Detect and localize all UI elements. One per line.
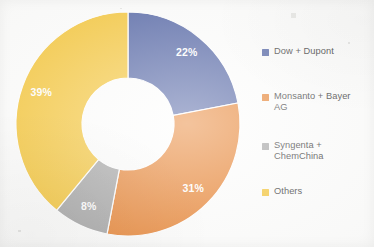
legend-swatch-syngenta-chemchina [262, 143, 269, 150]
chart-legend: Dow + Dupont Monsanto + Bayer AG Syngent… [262, 0, 374, 247]
scan-artifact-mark [291, 13, 296, 18]
donut-chart-svg: 22%31%8%39% [6, 4, 250, 244]
legend-label-monsanto-bayer: Monsanto + Bayer AG [274, 91, 351, 114]
legend-swatch-dow-dupont [262, 49, 269, 56]
legend-label-dow-dupont: Dow + Dupont [274, 46, 334, 57]
slice-data-label: 39% [30, 86, 52, 98]
scan-speck [18, 230, 21, 232]
legend-swatch-others [262, 189, 269, 196]
legend-label-syngenta-chemchina: Syngenta + ChemChina [274, 140, 324, 163]
slice-data-label: 31% [182, 182, 204, 194]
donut-slice-group [16, 12, 240, 236]
scan-speck [120, 8, 122, 9]
chart-plot-area: 22%31%8%39% [6, 4, 250, 244]
legend-item-others[interactable]: Others [262, 186, 370, 197]
legend-item-monsanto-bayer[interactable]: Monsanto + Bayer AG [262, 91, 370, 114]
legend-swatch-monsanto-bayer [262, 94, 269, 101]
legend-label-others: Others [274, 186, 302, 197]
donut-chart-figure: 22%31%8%39% Dow + Dupont Monsanto + Baye… [0, 0, 374, 247]
scan-speck [348, 42, 350, 44]
donut-slice[interactable] [128, 12, 238, 115]
slice-data-label: 8% [81, 200, 97, 212]
legend-item-dow-dupont[interactable]: Dow + Dupont [262, 46, 370, 57]
slice-data-label: 22% [176, 46, 198, 58]
donut-slice[interactable] [107, 103, 240, 236]
legend-item-syngenta-chemchina[interactable]: Syngenta + ChemChina [262, 140, 370, 163]
